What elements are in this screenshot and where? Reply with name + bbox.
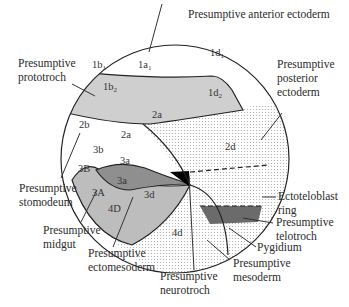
- cell-3A: 3A: [92, 187, 105, 198]
- cell-1a1: 1a1: [138, 59, 152, 72]
- label-telotroch: Presumptivetelotroch: [276, 216, 334, 242]
- label-pygidium: Pygidium: [257, 241, 302, 254]
- telotroch-band: [200, 206, 262, 224]
- label-neurotroch: Presumptiveneurotroch: [160, 270, 218, 296]
- label-ectoteloblast: Ectoteloblastring: [278, 190, 339, 217]
- cell-2a: 2a: [121, 129, 131, 140]
- leader-anterior-ectoderm: [149, 4, 162, 52]
- cell-2d: 2d: [225, 141, 236, 152]
- cell-3b: 3b: [93, 144, 104, 155]
- label-posterior-ectoderm: Presumptiveposteriorectoderm: [277, 58, 335, 98]
- cell-1b1: 1b1: [92, 59, 107, 72]
- label-anterior-ectoderm: Presumptive anterior ectoderm: [188, 8, 330, 21]
- cell-3d: 3d: [144, 189, 155, 200]
- cell-4D: 4D: [108, 203, 121, 214]
- label-prototroch: Presumptiveprototroch: [18, 57, 76, 84]
- cell-4d: 4d: [172, 227, 183, 238]
- cell-1d1: 1d1: [210, 47, 225, 60]
- label-mesoderm: Presumptivemesoderm: [233, 257, 291, 283]
- cell-3B: 3B: [78, 163, 90, 174]
- fate-map-diagram: 1b1 1a1 1d1 1b2 1d2 2a 2b 2a 2d 3b 3a 3B…: [0, 0, 349, 307]
- cell-2b: 2b: [79, 119, 90, 130]
- cell-3a-upper: 3a: [120, 155, 130, 166]
- cell-2a-upper: 2a: [152, 109, 162, 120]
- cell-3a: 3a: [117, 175, 127, 186]
- label-stomodeum: Presumptivestomodeum: [19, 182, 77, 208]
